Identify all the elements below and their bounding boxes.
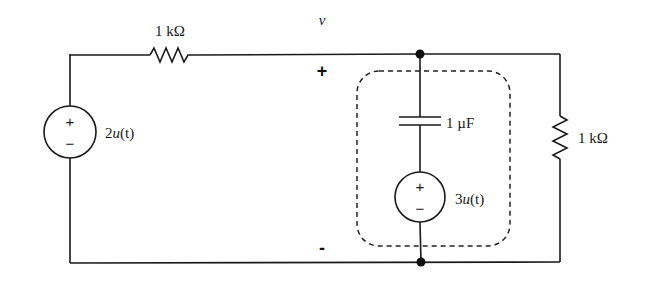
left-source-func: u — [113, 125, 121, 141]
capacitor-icon — [399, 117, 441, 125]
voltage-v-label: v — [319, 12, 326, 28]
voltage-plus-sign: + — [317, 61, 328, 81]
inner-source-label: 3u(t) — [455, 191, 484, 208]
circuit-diagram: + − 2u(t) 1 kΩ v + - 1 µF + − 3u(t) — [0, 0, 648, 285]
bottom-wire — [70, 262, 560, 263]
inner-source-coeff: 3 — [455, 191, 463, 207]
right-branch: 1 kΩ — [553, 54, 608, 262]
right-resistor-label: 1 kΩ — [578, 130, 608, 146]
inner-source-arg: (t) — [470, 191, 484, 208]
inner-source-func: u — [463, 191, 471, 207]
source-plus-sign: + — [416, 178, 425, 195]
node-dot-top — [416, 50, 425, 59]
source-minus-sign: − — [66, 135, 75, 152]
left-branch: + − 2u(t) — [44, 54, 134, 263]
left-source-arg: (t) — [120, 125, 134, 142]
source-plus-sign: + — [66, 113, 75, 130]
dashed-enclosure — [357, 71, 510, 246]
resistor-icon — [553, 116, 567, 159]
top-branch: 1 kΩ — [70, 23, 560, 62]
node-dot-bottom — [417, 258, 426, 267]
voltage-source-2u: + − — [44, 106, 96, 158]
wire — [192, 54, 420, 55]
capacitor-label: 1 µF — [446, 115, 474, 131]
middle-branch: 1 µF + − 3u(t) — [357, 50, 510, 267]
left-source-label: 2u(t) — [105, 125, 134, 142]
voltage-minus-sign: - — [319, 238, 325, 258]
wire — [420, 222, 421, 263]
resistor-icon — [150, 48, 192, 62]
voltage-source-3u: + − — [395, 172, 445, 222]
top-resistor-label: 1 kΩ — [155, 23, 185, 39]
left-source-coeff: 2 — [105, 125, 113, 141]
source-minus-sign: − — [416, 200, 425, 217]
